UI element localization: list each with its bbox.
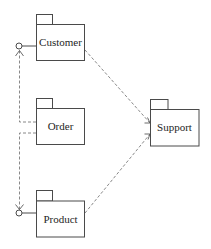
package-tab-icon	[37, 191, 53, 202]
package-order[interactable]: Order	[37, 99, 85, 145]
dependency-customer-to-support	[85, 50, 150, 123]
package-label: Support	[157, 121, 192, 133]
dependency-product-to-support	[85, 134, 150, 213]
package-product[interactable]: Product	[37, 191, 85, 238]
usage-order-to-customer-interface	[16, 51, 37, 123]
dependency-line	[85, 50, 150, 123]
customer-interface-lollipop	[16, 43, 36, 49]
product-interface-lollipop	[16, 210, 36, 216]
package-tab-icon	[37, 99, 53, 109]
package-label: Order	[48, 120, 74, 132]
dependency-line	[85, 134, 150, 213]
usage-order-to-product-interface	[16, 133, 37, 210]
package-label: Product	[43, 213, 77, 225]
package-tab-icon	[151, 100, 169, 110]
interface-circle-icon	[16, 43, 22, 49]
package-tab-icon	[37, 15, 53, 25]
usage-line	[20, 51, 37, 123]
package-diagram-canvas: Customer Order Product Support	[0, 0, 211, 249]
package-label: Customer	[39, 36, 82, 48]
interface-circle-icon	[16, 210, 22, 216]
package-customer[interactable]: Customer	[37, 15, 85, 61]
usage-line	[20, 133, 37, 210]
package-support[interactable]: Support	[151, 100, 200, 147]
